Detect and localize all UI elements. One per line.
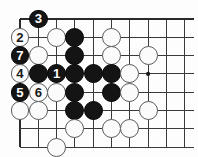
move-stone-3: 3 xyxy=(29,10,48,29)
stone-black xyxy=(29,64,48,83)
move-number-label: 5 xyxy=(16,85,23,98)
move-number-label: 3 xyxy=(35,12,42,25)
stone-white xyxy=(29,46,48,65)
move-stone-5: 5 xyxy=(11,83,30,102)
stone-black xyxy=(84,101,103,120)
stone-black xyxy=(84,64,103,83)
stone-black xyxy=(65,83,84,102)
stone-white xyxy=(47,28,66,47)
stone-white xyxy=(120,83,139,102)
move-number-label: 2 xyxy=(16,30,23,43)
stone-white xyxy=(102,46,121,65)
stone-white xyxy=(11,101,30,120)
move-stone-2: 2 xyxy=(11,28,30,47)
stone-black xyxy=(102,83,121,102)
stone-white xyxy=(29,101,48,120)
stone-white xyxy=(47,138,66,157)
move-number-label: 6 xyxy=(35,85,42,98)
move-number-label: 1 xyxy=(53,67,60,80)
stone-black xyxy=(65,28,84,47)
star-point xyxy=(146,72,150,76)
stone-white xyxy=(102,119,121,138)
stone-white xyxy=(102,28,121,47)
go-board-diagram: 2374561 xyxy=(0,0,198,157)
move-stone-6: 6 xyxy=(29,83,48,102)
stone-white xyxy=(139,46,158,65)
stone-white xyxy=(47,83,66,102)
move-number-label: 7 xyxy=(16,49,23,62)
move-number-label: 4 xyxy=(16,67,23,80)
stone-white xyxy=(139,101,158,120)
